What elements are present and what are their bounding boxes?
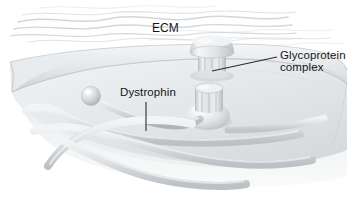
label-glycoprotein-line1: Glycoprotein [280, 50, 346, 62]
dystrophin-globular-head [82, 87, 101, 106]
ecm-top-fade [0, 0, 349, 14]
label-dystrophin: Dystrophin [120, 87, 176, 99]
label-glycoprotein-complex: Glycoprotein complex [280, 50, 346, 73]
label-ecm: ECM [152, 23, 179, 35]
label-glycoprotein-line2: complex [280, 62, 346, 74]
figure-dystrophin-glycoprotein-complex: ECM Glycoprotein complex Dystrophin [0, 0, 349, 202]
